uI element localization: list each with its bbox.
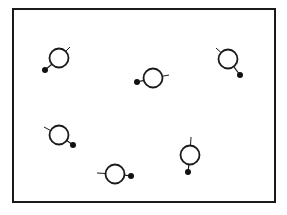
molecule (216, 48, 243, 78)
molecule-circle (50, 49, 69, 68)
molecule-dot (185, 169, 191, 175)
molecule-tail (44, 127, 51, 131)
molecule-dot (42, 67, 48, 73)
molecule-tail (162, 75, 169, 76)
container-frame (13, 9, 275, 202)
molecule (134, 69, 169, 88)
molecule-dot (134, 79, 140, 85)
molecule-circle (106, 165, 125, 184)
molecule (42, 47, 70, 73)
molecule (44, 126, 76, 149)
molecule-dot (70, 142, 76, 148)
molecule-circle (144, 69, 163, 88)
molecule-circle (219, 50, 238, 69)
molecule-circle (50, 126, 69, 145)
molecule-dot (128, 173, 134, 179)
molecules-group (42, 47, 243, 184)
molecule-tail (216, 48, 221, 53)
diagram-canvas (0, 0, 287, 215)
molecule-dot (237, 72, 243, 78)
molecule-circle (181, 146, 200, 165)
molecule-tail (66, 47, 70, 51)
molecule (181, 137, 200, 175)
molecule (97, 165, 134, 184)
